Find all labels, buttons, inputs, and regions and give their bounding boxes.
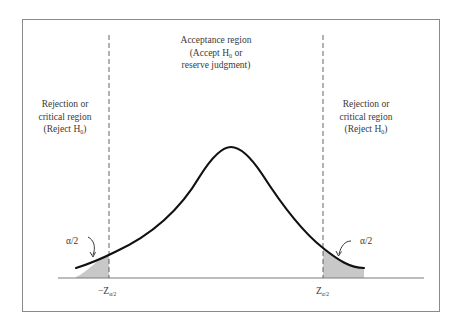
left-rejection-line1: Rejection or — [22, 98, 108, 111]
acceptance-line1: Acceptance region — [156, 34, 276, 47]
right-rejection-line3: (Reject H0) — [323, 123, 409, 136]
left-tail-alpha-label: α/2 — [66, 236, 78, 246]
acceptance-line3: reserve judgment) — [156, 59, 276, 72]
normal-curve — [76, 147, 364, 268]
left-critical-value-sub: α/2 — [109, 291, 116, 297]
acceptance-region-label: Acceptance region (Accept H0 or reserve … — [156, 34, 276, 72]
right-tail-alpha-label: α/2 — [360, 236, 372, 246]
right-rejection-region-label: Rejection or critical region (Reject H0) — [323, 98, 409, 136]
left-rejection-line3-prefix: (Reject H — [44, 124, 81, 134]
acceptance-line2: (Accept H0 or — [156, 47, 276, 60]
left-critical-value-main: −Z — [98, 286, 109, 296]
right-critical-value-sub: α/2 — [322, 291, 329, 297]
right-rejection-line3-suffix: ) — [384, 124, 387, 134]
left-rejection-line3: (Reject H0) — [22, 123, 108, 136]
acceptance-line2-suffix: or — [232, 48, 242, 58]
acceptance-line2-prefix: (Accept H — [190, 48, 229, 58]
left-rejection-line3-suffix: ) — [83, 124, 86, 134]
left-critical-value-label: −Zα/2 — [98, 286, 116, 296]
left-rejection-line2: critical region — [22, 111, 108, 124]
right-critical-value-label: Zα/2 — [316, 286, 329, 296]
right-rejection-line3-prefix: (Reject H — [345, 124, 382, 134]
right-rejection-line1: Rejection or — [323, 98, 409, 111]
left-tail-arrow-icon — [88, 237, 94, 255]
left-rejection-region-label: Rejection or critical region (Reject H0) — [22, 98, 108, 136]
right-rejection-line2: critical region — [323, 111, 409, 124]
